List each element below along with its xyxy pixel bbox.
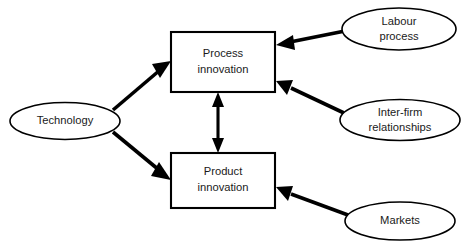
edge-technology-to-process-innovation: [113, 61, 171, 110]
node-markets-label: Markets: [380, 214, 420, 226]
node-product-innovation-label-line2: innovation: [197, 181, 248, 193]
edge-process-innovation-to-product-innovation: [212, 92, 224, 153]
edge-labour-process-to-process-innovation: [276, 31, 345, 50]
node-process-innovation-label-line2: innovation: [197, 63, 248, 75]
node-technology-label: Technology: [37, 114, 94, 126]
node-process-innovation-label-line1: Process: [203, 47, 244, 59]
node-labour-process-label-line2: process: [379, 30, 419, 42]
edge-technology-to-product-innovation: [113, 132, 171, 180]
node-labour-process-label-line1: Labour: [382, 15, 417, 27]
node-product-innovation[interactable]: Product innovation: [171, 153, 275, 208]
node-inter-firm-relationships-label-line1: Inter-firm: [378, 106, 423, 118]
node-markets[interactable]: Markets: [345, 202, 455, 240]
node-inter-firm-relationships-label-line2: relationships: [369, 121, 432, 133]
node-inter-firm-relationships[interactable]: Inter-firm relationships: [340, 100, 460, 141]
edge-inter-firm-relationships-to-process-innovation: [276, 80, 344, 113]
node-process-innovation[interactable]: Process innovation: [171, 32, 275, 92]
node-product-innovation-label-line1: Product: [204, 165, 243, 177]
innovation-diagram: Technology Process innovation Product in…: [0, 0, 461, 252]
node-labour-process[interactable]: Labour process: [342, 8, 456, 50]
edge-markets-to-product-innovation: [276, 186, 348, 215]
node-technology[interactable]: Technology: [10, 103, 120, 140]
